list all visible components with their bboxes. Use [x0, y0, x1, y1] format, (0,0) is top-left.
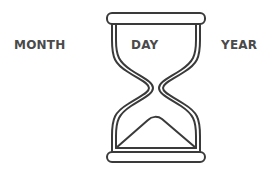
label-day: DAY — [131, 38, 158, 52]
label-month: MONTH — [14, 38, 65, 52]
hourglass-glass-outer-right — [163, 24, 200, 152]
label-year: YEAR — [221, 38, 257, 52]
hourglass-sand — [116, 117, 196, 148]
hourglass-icon — [0, 0, 272, 180]
hourglass-top-cap — [107, 13, 205, 24]
hourglass-bottom-cap — [107, 152, 205, 162]
